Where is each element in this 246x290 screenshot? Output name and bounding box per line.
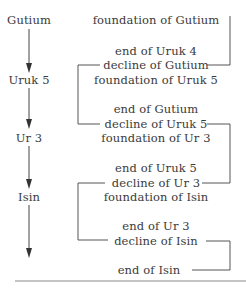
event-end-of-uruk5: end of Uruk 5: [115, 161, 197, 175]
event-foundation-of-uruk5: foundation of Uruk 5: [94, 73, 218, 87]
event-decline-of-ur3: decline of Ur 3: [112, 176, 200, 190]
event-foundation-of-isin: foundation of Isin: [104, 190, 209, 204]
event-end-of-ur3: end of Ur 3: [122, 219, 189, 233]
chronology-diagram: Gutium Uruk 5 Ur 3 Isin foundation of Gu…: [0, 0, 246, 290]
dynasty-label-ur3: Ur 3: [16, 131, 43, 145]
event-decline-of-gutium: decline of Gutium: [103, 58, 209, 72]
event-end-of-isin: end of Isin: [118, 263, 181, 277]
event-foundation-of-gutium: foundation of Gutium: [93, 13, 220, 27]
event-end-of-uruk4: end of Uruk 4: [115, 44, 197, 58]
event-decline-of-uruk5: decline of Uruk 5: [105, 117, 208, 131]
event-end-of-gutium: end of Gutium: [114, 102, 199, 116]
dynasty-label-isin: Isin: [18, 190, 40, 204]
dynasty-label-uruk5: Uruk 5: [8, 73, 49, 87]
event-decline-of-isin: decline of Isin: [114, 234, 198, 248]
dynasty-label-gutium: Gutium: [7, 13, 51, 27]
event-foundation-of-ur3: foundation of Ur 3: [101, 131, 210, 145]
left-brackets: [78, 65, 108, 240]
